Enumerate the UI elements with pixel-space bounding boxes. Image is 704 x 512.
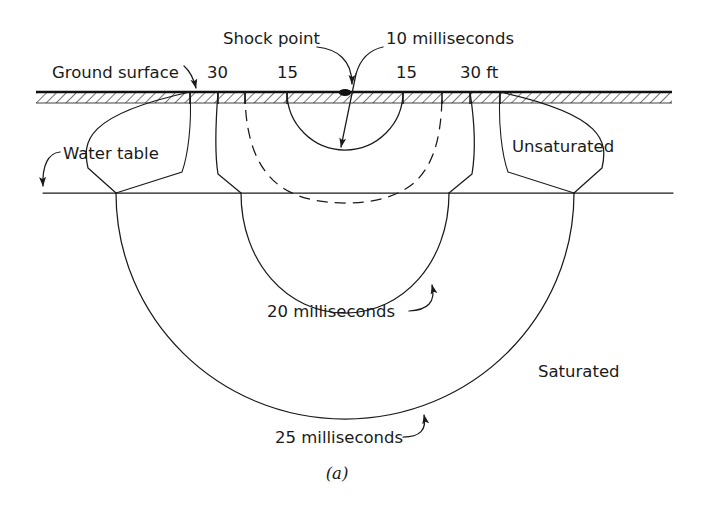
leader-water-table — [43, 152, 60, 186]
refracted-head-wave-limbs — [116, 92, 574, 193]
tick-label-30ft-right: 30 ft — [460, 63, 499, 82]
shock-point-marker — [339, 89, 351, 96]
figure-caption: (a) — [326, 464, 349, 483]
wavefront-dashed-unsaturated — [245, 92, 442, 203]
label-saturated: Saturated — [538, 362, 620, 381]
label-shock-point: Shock point — [223, 29, 321, 48]
label-10-milliseconds: 10 milliseconds — [386, 29, 514, 48]
tick-label-15-left: 15 — [277, 63, 298, 82]
leader-20ms — [409, 285, 433, 311]
label-25-milliseconds: 25 milliseconds — [275, 428, 403, 447]
label-unsaturated: Unsaturated — [512, 137, 614, 156]
tick-label-15-right: 15 — [396, 63, 417, 82]
leader-ground-surface — [184, 66, 196, 88]
leader-shock-point — [317, 47, 352, 84]
label-water-table: Water table — [63, 144, 159, 163]
ground-surface-band — [36, 92, 672, 103]
label-ground-surface: Ground surface — [52, 63, 179, 82]
label-20-milliseconds: 20 milliseconds — [267, 302, 395, 321]
seismic-wavefront-figure: Ground surface Shock point 10 millisecon… — [0, 0, 704, 512]
diagram-canvas: Ground surface Shock point 10 millisecon… — [0, 0, 704, 512]
leader-25ms — [403, 415, 425, 437]
tick-label-30-left: 30 — [207, 63, 228, 82]
